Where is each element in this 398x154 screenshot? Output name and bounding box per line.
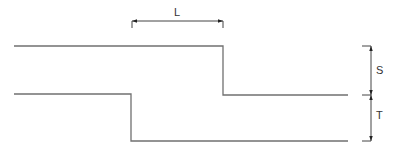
step-offset-diagram: L S T [0, 0, 398, 154]
label-l: L [174, 6, 180, 18]
lower-profile-line [14, 94, 348, 141]
label-s: S [376, 64, 383, 76]
dimension-s: S [362, 46, 383, 95]
upper-profile-line [14, 46, 348, 95]
dimension-t: T [362, 95, 383, 141]
label-t: T [376, 109, 383, 121]
dimension-l: L [132, 6, 223, 28]
